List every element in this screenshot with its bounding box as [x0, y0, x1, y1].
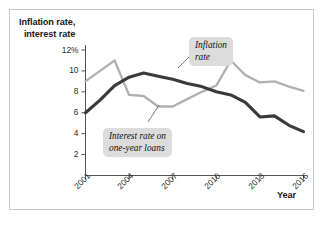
y-tick-label: 10: [38, 65, 79, 75]
callout-interest-line-1: Interest rate on: [109, 131, 166, 143]
callout-interest-line-2: one-year loans: [109, 143, 166, 155]
y-tick-label: 12%: [38, 45, 79, 55]
callout-inflation-line-2: rate: [195, 52, 227, 64]
y-tick-label: 4: [38, 128, 79, 138]
data-series-group: [86, 60, 304, 131]
callout-inflation-rate: Inflation rate: [189, 37, 233, 66]
callout-inflation-line-1: Inflation: [195, 40, 227, 52]
callout-interest-rate: Interest rate on one-year loans: [103, 128, 172, 157]
leader-line-interest: [148, 105, 159, 122]
y-tick-marks: [82, 50, 86, 155]
chart-figure: Inflation rate, interest rate Year 24681…: [0, 0, 325, 233]
y-tick-label: 8: [38, 86, 79, 96]
y-tick-label: 2: [38, 149, 79, 159]
callout-leader-lines: [148, 53, 193, 122]
y-tick-label: 6: [38, 107, 79, 117]
